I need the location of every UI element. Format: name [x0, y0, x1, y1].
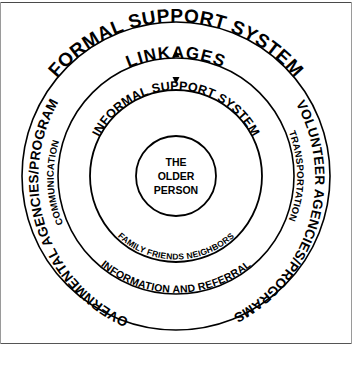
label-communication: COMMUNICATION: [45, 138, 65, 227]
label-information-and-referral: INFORMATION AND REFERRAL: [99, 257, 253, 294]
label-family-friends-neighbors: FAMILY FRIENDS NEIGHBORS: [116, 230, 236, 261]
concentric-ring-diagram: FORMAL SUPPORT SYSTEM GOVERNMENTAL AGENC…: [0, 0, 352, 372]
center-label-line2: OLDER: [158, 170, 195, 182]
label-linkages: LINKAGES: [123, 43, 229, 72]
center-label-line1: THE: [166, 156, 187, 168]
label-informal-support-system: INFORMAL SUPPORT SYSTEM: [89, 79, 262, 139]
center-label-line3: PERSON: [154, 184, 198, 196]
label-volunteer-agencies-programs: VOLUNTEER AGENCIES/PROGRAMS: [231, 98, 327, 326]
